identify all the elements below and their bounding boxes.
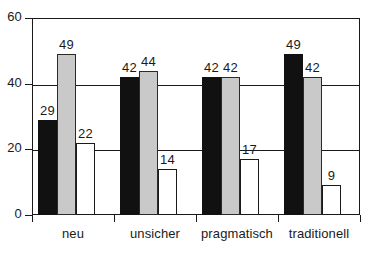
x-axis-tick: [114, 215, 115, 222]
x-axis-tick: [196, 215, 197, 222]
bar-chart: 0204060 29492242441442421749429 neuunsic…: [0, 0, 377, 261]
y-axis-tick: [25, 18, 33, 19]
y-axis-tick-label: 20: [0, 140, 22, 155]
x-axis-tick: [360, 215, 361, 222]
bar: [38, 120, 57, 215]
y-axis-tick: [25, 149, 33, 150]
bar: [158, 169, 177, 215]
x-axis-tick: [32, 215, 33, 222]
bar-value-label: 42: [204, 60, 219, 75]
x-axis-category-label: pragmatisch: [201, 226, 273, 241]
bar-value-label: 42: [122, 60, 137, 75]
bar: [139, 71, 158, 215]
bar-value-label: 49: [59, 37, 74, 52]
bar: [322, 185, 341, 215]
x-axis-tick: [278, 215, 279, 222]
y-axis-tick-label: 60: [0, 9, 22, 24]
bar: [76, 143, 95, 215]
bar-value-label: 42: [223, 60, 238, 75]
bar-value-label: 49: [286, 37, 301, 52]
y-axis-tick-label: 0: [0, 206, 22, 221]
x-axis-category-label: neu: [62, 226, 84, 241]
bar: [57, 54, 76, 215]
bar: [303, 77, 322, 215]
y-axis-tick: [25, 84, 33, 85]
bar-value-label: 29: [40, 103, 55, 118]
bar: [221, 77, 240, 215]
x-axis-category-label: unsicher: [130, 226, 180, 241]
bar: [120, 77, 139, 215]
bar-value-label: 42: [305, 60, 320, 75]
bar: [284, 54, 303, 215]
bar-value-label: 14: [160, 152, 175, 167]
bar-value-label: 9: [328, 168, 335, 183]
x-axis-category-label: traditionell: [289, 226, 349, 241]
bar-value-label: 22: [78, 126, 93, 141]
bar-value-label: 44: [141, 54, 156, 69]
bar-value-label: 17: [242, 142, 257, 157]
bar: [240, 159, 259, 215]
y-axis-tick-label: 40: [0, 75, 22, 90]
bar: [202, 77, 221, 215]
